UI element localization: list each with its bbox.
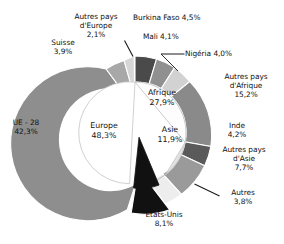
outer-label-autres-pays-afrique: Autres pays d'Afrique 15,2% bbox=[210, 72, 282, 100]
outer-label-autres-pays-europe: Autres pays d'Europe 2,1% bbox=[62, 12, 130, 40]
pie-chart-figure: Afrique 27,9% Europe 48,3% Asie 11,9% Au… bbox=[0, 0, 284, 244]
leader-line-autres bbox=[195, 184, 220, 196]
outer-label-autres-pays-asie: Autres pays d'Asie 7,7% bbox=[209, 145, 279, 173]
outer-label-autres: Autres 3,8% bbox=[220, 188, 266, 206]
inner-slice-etats-unis bbox=[134, 137, 159, 188]
leader-line-autres-pays-europe bbox=[125, 41, 134, 57]
inner-label-afrique: Afrique 27,9% bbox=[131, 88, 193, 107]
outer-label-burkina-faso: Burkina Faso 4,5% bbox=[133, 13, 221, 22]
outer-label-mali: Mali 4,1% bbox=[143, 32, 203, 41]
inner-label-asie: Asie 11,9% bbox=[150, 125, 190, 144]
outer-label-suisse: Suisse 3,9% bbox=[43, 38, 83, 56]
outer-label-nigeria: Nigéria 4,0% bbox=[185, 49, 255, 58]
outer-label-inde: Inde 4,2% bbox=[216, 121, 258, 139]
inner-label-europe: Europe 48,3% bbox=[75, 121, 133, 140]
outer-label-etats-unis: États-Unis 8,1% bbox=[130, 210, 198, 228]
outer-label-ue-28: UE - 28 42,3% bbox=[2, 118, 50, 136]
